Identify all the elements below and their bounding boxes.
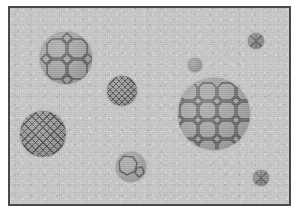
grain-upper-left — [40, 32, 92, 84]
grain-lower-left — [20, 111, 66, 157]
grain-center-hatched — [107, 76, 137, 106]
grain-plain-small-fill — [188, 58, 202, 72]
grain-top-right-x — [248, 33, 264, 49]
grain-plain-small — [188, 58, 202, 72]
grain-right-large — [178, 78, 250, 150]
grain-bottom-right-x-cells — [253, 170, 269, 186]
grain-upper-left-cells — [40, 32, 92, 84]
grain-bottom-center-cells — [116, 152, 146, 182]
figure-root — [0, 0, 299, 214]
plate-frame — [8, 6, 291, 206]
grain-lower-left-fill — [20, 111, 66, 157]
grain-center-hatched-fill — [107, 76, 137, 106]
grain-right-large-cells — [178, 78, 250, 150]
grain-bottom-center — [116, 152, 146, 182]
grain-bottom-right-x — [253, 170, 269, 186]
grain-top-right-x-cells — [248, 33, 264, 49]
